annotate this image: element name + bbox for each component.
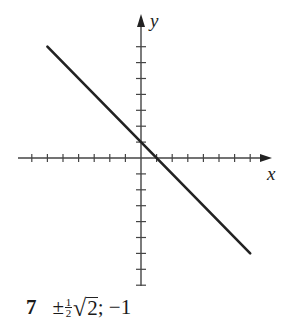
fraction-denominator: 2 — [66, 308, 72, 318]
radicand: 2 — [86, 297, 98, 318]
y-axis-arrow-icon — [137, 14, 145, 27]
fraction: 1 2 — [65, 297, 72, 318]
graph — [0, 0, 286, 295]
caption-rest: ; −1 — [98, 295, 131, 320]
plot-line — [47, 47, 250, 254]
x-axis-arrow-icon — [260, 154, 272, 162]
square-root: √ 2 — [73, 297, 98, 318]
fraction-numerator: 1 — [66, 297, 72, 307]
x-axis-label: x — [267, 163, 275, 185]
radical-sign: √ — [73, 298, 86, 318]
line-series — [47, 47, 250, 254]
y-axis-label: y — [150, 10, 158, 32]
answer-caption: 7 ± 1 2 √ 2 ; −1 — [26, 295, 131, 320]
problem-number: 7 — [26, 295, 37, 320]
plus-minus: ± — [53, 295, 65, 320]
